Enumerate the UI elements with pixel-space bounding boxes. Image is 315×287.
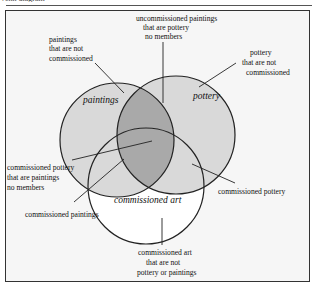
annotation-pottery-not-commissioned: pottery that are not commissioned (242, 48, 290, 77)
label-pottery: pottery (192, 91, 221, 101)
annotation-paintings-not-commissioned: paintings that are not commissioned (49, 35, 93, 63)
label-paintings: paintings (82, 95, 119, 105)
annotation-commissioned-pottery: commissioned pottery (218, 187, 285, 196)
annotation-commissioned-paintings: commissioned paintings (25, 210, 99, 219)
annotation-commissioned-pottery-paintings: commissioned pottery that are paintings … (7, 163, 76, 192)
annotation-commissioned-only: commissioned art that are not pottery or… (137, 248, 197, 277)
label-commissioned-art: commissioned art (114, 195, 182, 205)
annotation-uncommissioned-paintings-pottery: uncommissioned paintings that are potter… (136, 14, 219, 41)
venn-diagram: paintings pottery commissioned art uncom… (0, 0, 315, 287)
